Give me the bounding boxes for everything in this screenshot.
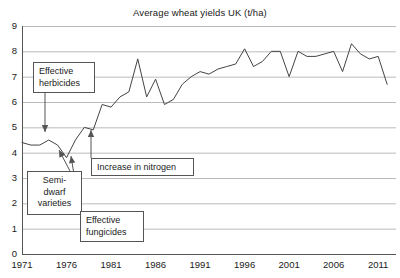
x-axis-tick-label: 1976 xyxy=(47,259,87,270)
y-axis-tick-label: 2 xyxy=(1,197,17,208)
annotation-arrowhead xyxy=(88,130,94,137)
x-axis-tick-label: 2001 xyxy=(269,259,309,270)
annotation-arrowhead xyxy=(42,125,48,132)
x-axis-tick-label: 2011 xyxy=(358,259,398,270)
y-axis-tick-label: 3 xyxy=(1,172,17,183)
x-axis-tick-label: 2006 xyxy=(314,259,354,270)
y-axis-tick-label: 1 xyxy=(1,223,17,234)
x-axis-tick-label: 1986 xyxy=(136,259,176,270)
y-axis-tick-label: 7 xyxy=(1,71,17,82)
data-series-line xyxy=(22,44,387,158)
annotation-callout-effective-fungicides: Effective fungicides xyxy=(80,211,144,242)
y-axis-tick-label: 8 xyxy=(1,45,17,56)
annotation-callout-increase-in-nitrogen: Increase in nitrogen xyxy=(91,158,194,176)
x-axis-tick-label: 1991 xyxy=(180,259,220,270)
y-axis-tick-label: 6 xyxy=(1,96,17,107)
annotation-callout-semi-dwarf-varieties: Semi- dwarf varieties xyxy=(27,171,82,215)
x-axis-tick-label: 1996 xyxy=(225,259,265,270)
annotation-arrowhead xyxy=(69,156,75,163)
y-axis-tick-label: 4 xyxy=(1,147,17,158)
y-axis-tick-label: 0 xyxy=(1,248,17,259)
y-axis-tick-label: 9 xyxy=(1,20,17,31)
x-axis-tick-label: 1981 xyxy=(91,259,131,270)
y-axis-tick-label: 5 xyxy=(1,121,17,132)
x-axis-tick-label: 1971 xyxy=(2,259,42,270)
annotation-callout-effective-herbicides: Effective herbicides xyxy=(33,62,95,93)
wheat-yield-chart: Average wheat yields UK (t/ha) 012345678… xyxy=(0,0,400,278)
plot-area xyxy=(0,0,400,278)
